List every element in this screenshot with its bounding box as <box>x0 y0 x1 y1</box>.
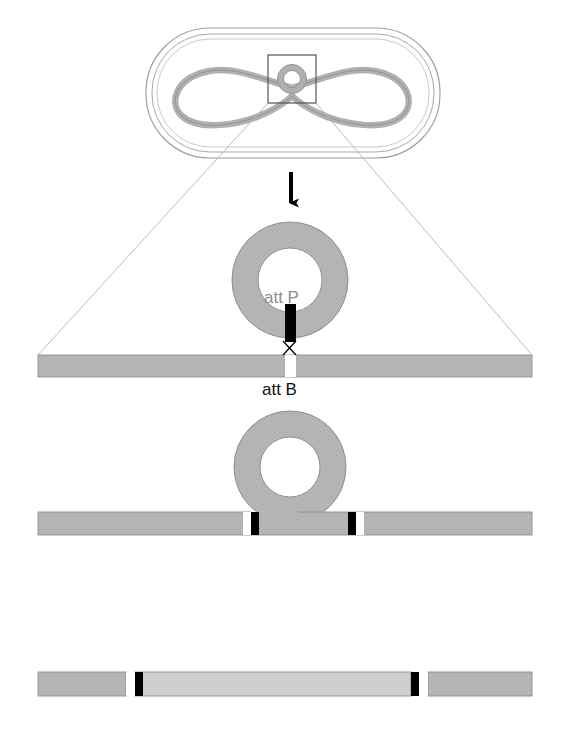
att-mark-white-left-stage3 <box>126 672 135 696</box>
bacterial-chromosome <box>175 70 408 125</box>
attB-site-gap <box>285 355 296 377</box>
att-b-label: att B <box>262 380 297 400</box>
att-marks-stage2-right <box>348 512 364 535</box>
chromosome-bar-stage2-left <box>38 512 251 535</box>
guide-line-left <box>38 103 268 355</box>
bacterial-cell-group <box>146 28 440 158</box>
att-mark-black-left-stage3 <box>135 672 143 696</box>
chromosome-bar-stage3-right <box>428 672 532 696</box>
chromosome-bar-stage3-left <box>38 672 126 696</box>
att-p-label: att P <box>264 288 299 308</box>
guide-line-right <box>316 103 532 355</box>
att-mark-black-right <box>348 512 356 535</box>
att-mark-white-left <box>243 512 251 535</box>
att-marks-stage2-left <box>243 512 259 535</box>
attP-site-mark <box>285 304 296 342</box>
chromosome-bar-stage2-right <box>356 512 532 535</box>
phage-ring-stage1 <box>232 222 348 342</box>
att-marks-stage3-left <box>126 672 143 696</box>
chromosome-bar-stage1 <box>38 355 532 377</box>
att-mark-white-right <box>356 512 364 535</box>
chromosome-bar-stage2-middle <box>251 512 356 535</box>
crossover-x <box>283 341 296 355</box>
phage-integration-diagram <box>0 0 569 743</box>
att-marks-stage3-right <box>411 672 428 696</box>
integrated-prophage-segment <box>135 672 411 696</box>
phage-loop-stage2-inner-edge <box>260 437 320 497</box>
stage-3-integrated <box>38 672 532 696</box>
att-mark-black-left <box>251 512 259 535</box>
stage-2-recombination <box>38 411 532 535</box>
att-mark-white-right-stage3 <box>419 672 428 696</box>
att-mark-black-right-stage3 <box>411 672 419 696</box>
